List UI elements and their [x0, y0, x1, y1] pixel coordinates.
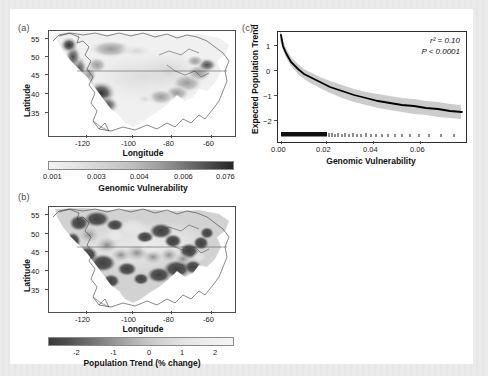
panel-a-xlabel: Longitude: [98, 148, 188, 158]
panel-b-xtick-60: -60: [203, 315, 214, 324]
panel-a-xtick-80: -80: [163, 139, 174, 148]
panel-a-xtick-100: -100: [121, 139, 136, 148]
panel-a-xtickmark: [132, 135, 133, 138]
panel-b-xlabel: Longitude: [98, 324, 188, 334]
panel-c-ytick-neg2: −2: [263, 117, 272, 126]
panel-c-xtickmark: [420, 141, 421, 144]
panel-b-xtick-100: -100: [121, 315, 136, 324]
panel-b-ytick-40: 40: [31, 267, 39, 276]
panel-b-map-raster: [49, 207, 235, 312]
panel-b-ytick-50: 50: [31, 230, 39, 239]
panel-a-xtick-120: -120: [75, 139, 90, 148]
panel-a-ytick-35: 35: [31, 109, 39, 118]
panel-a-xtick-60: -60: [203, 139, 214, 148]
panel-a-xtickmark: [171, 135, 172, 138]
panel-a-cbar-tick-4: 0.076: [216, 172, 235, 181]
panel-b-colorbar-caption: Population Trend (% change): [46, 358, 238, 368]
panel-b-cbar-tick-2: 0: [147, 348, 151, 357]
panel-a-colorbar-caption: Genomic Vulnerability: [68, 183, 218, 193]
panel-a-cbar-tick-2: 0.004: [130, 172, 149, 181]
panel-c-ytick-neg1: −1: [263, 92, 272, 101]
panel-b-xtickmark: [86, 311, 87, 314]
figure-panel: (a) Latitude 55 50 45 40 35: [10, 9, 473, 364]
panel-b-xtick-80: -80: [163, 315, 174, 324]
panel-a-ytick-40: 40: [31, 90, 39, 99]
panel-a-ytick-55: 55: [31, 35, 39, 44]
panel-b-xtickmark: [211, 311, 212, 314]
panel-b-cbar-tick-3: 1: [180, 348, 184, 357]
panel-a-colorbar: [48, 161, 234, 170]
panel-a-tag: (a): [18, 23, 30, 33]
panel-a-ytick-50: 50: [31, 53, 39, 62]
panel-c-ytick-1: 1: [266, 42, 270, 51]
panel-c-xlabel-006: 0.06: [410, 145, 425, 154]
panel-b-ytick-55: 55: [31, 211, 39, 220]
panel-b-xtick-120: -120: [75, 315, 90, 324]
panel-b-ytick-45: 45: [31, 248, 39, 257]
panel-a-map-raster: [49, 31, 235, 136]
panel-b-map: [48, 206, 236, 313]
panel-c-xtickmark: [281, 141, 282, 144]
panel-c-xlabel: Genomic Vulnerability: [291, 156, 451, 166]
panel-a-cbar-tick-3: 0.006: [174, 172, 193, 181]
panel-c-ylabel: Expected Population Trend: [250, 24, 260, 134]
panel-b-ytick-35: 35: [31, 286, 39, 295]
panel-b-xtickmark: [132, 311, 133, 314]
panel-c-r2-annotation: r² = 0.10: [430, 36, 460, 45]
panel-b-cbar-tick-0: -2: [73, 348, 80, 357]
panel-c-xtickmark: [326, 141, 327, 144]
panel-c-xtickmark: [373, 141, 374, 144]
panel-b-cbar-tick-4: 2: [213, 348, 217, 357]
panel-c-xtick-000: 0.00: [271, 145, 286, 154]
panel-a-map: [48, 30, 236, 137]
panel-c-plot-area: r² = 0.10 P < 0.0001: [277, 31, 467, 143]
panel-a-cbar-tick-1: 0.003: [87, 172, 106, 181]
panel-c-ytick-0: 0: [266, 67, 270, 76]
panel-a-ytick-45: 45: [31, 71, 39, 80]
panel-b-cbar-tick-1: -1: [110, 348, 117, 357]
panel-c-xtick-002: 0.02: [316, 145, 331, 154]
panel-c-xtick-004: 0.04: [363, 145, 378, 154]
panel-a-xtickmark: [211, 135, 212, 138]
panel-a-cbar-tick-0: 0.001: [43, 172, 62, 181]
panel-b-tag: (b): [18, 192, 30, 202]
panel-b-xtickmark: [171, 311, 172, 314]
panel-a-xtickmark: [86, 135, 87, 138]
panel-c-p-annotation: P < 0.0001: [421, 47, 460, 56]
panel-b-colorbar: [48, 337, 234, 346]
